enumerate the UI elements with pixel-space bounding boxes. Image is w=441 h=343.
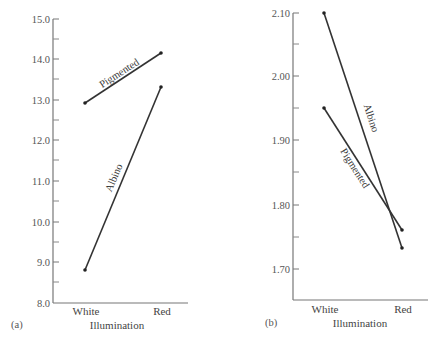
y-tick-label: 13.0 <box>32 95 50 106</box>
data-point <box>400 228 404 232</box>
y-tick-label: 2.00 <box>272 71 290 82</box>
x-category-red: Red <box>153 305 171 317</box>
series-label-albino: Albino <box>103 162 125 193</box>
panel-a-major-ticks <box>53 19 59 262</box>
panel-b-x-axis-title: Illumination <box>333 317 388 329</box>
series-label-pigmented: Pigmented <box>338 146 372 190</box>
panel-a-x-axis-title: Illumination <box>90 319 145 331</box>
y-tick-label: 9.0 <box>37 257 50 268</box>
panel-b-label: (b) <box>265 317 278 329</box>
x-category-white: White <box>312 303 339 315</box>
data-point <box>83 101 87 105</box>
panel-b: 2.10 2.00 1.90 1.80 1.70 White Red Illum… <box>265 8 428 329</box>
y-tick-label: 1.70 <box>272 264 290 275</box>
y-tick-label: 11.0 <box>32 176 50 187</box>
data-point <box>400 246 404 250</box>
albino-line-a <box>85 87 161 270</box>
figure: 15.0 14.0 13.0 12.0 11.0 10.0 9.0 8.0 Wh… <box>0 0 441 343</box>
panel-a-label: (a) <box>11 319 23 331</box>
y-tick-label: 10.0 <box>32 217 50 228</box>
panel-b-major-ticks <box>293 13 299 269</box>
series-label-albino: Albino <box>361 102 381 133</box>
data-point <box>322 106 326 110</box>
series-label-pigmented: Pigmented <box>97 56 141 90</box>
data-point <box>83 268 87 272</box>
data-point <box>159 85 163 89</box>
y-tick-label: 12.0 <box>32 135 50 146</box>
x-category-white: White <box>73 305 100 317</box>
panel-b-y-tick-labels: 2.10 2.00 1.90 1.80 1.70 <box>272 8 290 275</box>
panel-a-y-tick-labels: 15.0 14.0 13.0 12.0 11.0 10.0 9.0 8.0 <box>32 14 50 309</box>
y-tick-label: 2.10 <box>272 8 290 19</box>
y-tick-label: 15.0 <box>32 14 50 25</box>
data-point <box>322 11 326 15</box>
pigmented-line-a <box>85 53 161 103</box>
panel-a: 15.0 14.0 13.0 12.0 11.0 10.0 9.0 8.0 Wh… <box>11 14 188 331</box>
y-tick-label: 1.90 <box>272 135 290 146</box>
y-tick-label: 8.0 <box>37 298 50 309</box>
data-point <box>159 51 163 55</box>
y-tick-label: 1.80 <box>272 200 290 211</box>
panel-a-minor-ticks <box>53 39 59 282</box>
y-tick-label: 14.0 <box>32 54 50 65</box>
x-category-red: Red <box>394 303 412 315</box>
